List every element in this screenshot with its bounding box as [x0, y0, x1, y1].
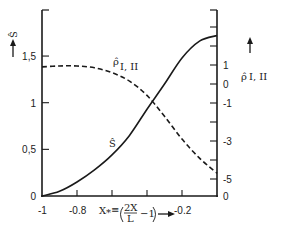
axes — [41, 10, 218, 197]
y-right-tick-label: -3 — [223, 136, 232, 147]
y-right-tick-label: -5 — [223, 174, 232, 185]
y-right-tick-label: 0 — [223, 191, 229, 202]
annotation-rho: ρ̂ — [113, 56, 119, 67]
curves — [42, 36, 217, 197]
x-label-eq: ≡ — [111, 204, 119, 215]
y-left-tick-label: 1,5 — [22, 51, 36, 62]
x-tick-label: -0.2 — [174, 205, 192, 216]
x-tick-label: -1 — [38, 205, 47, 216]
y-left-tick-label: 1 — [30, 98, 36, 109]
x-label-minus-one: −1 — [140, 208, 155, 219]
s-curve — [42, 36, 217, 197]
y-right-tick-label: 1 — [223, 60, 229, 71]
y-left-arrow-icon — [10, 39, 16, 57]
y-left-tick-label: 0,5 — [22, 144, 36, 155]
y-right-label-sub: I, II — [249, 71, 267, 82]
y-right-ticks: 0-5-3-101 — [210, 27, 232, 202]
annotation-rho-sub: I, II — [120, 61, 138, 72]
rho-curve — [42, 66, 217, 174]
x-label-den: L — [127, 213, 134, 224]
y-left-label: Ŝ — [8, 31, 19, 38]
x-label-arrow-icon — [158, 211, 175, 217]
y-right-arrow-icon — [247, 37, 253, 53]
y-right-label: ρ̂ — [241, 71, 247, 82]
x-label-num: 2X — [124, 202, 138, 213]
x-tick-label: -0.8 — [69, 205, 87, 216]
annotation-s: Ŝ — [109, 138, 116, 149]
y-right-tick-label: -1 — [223, 98, 232, 109]
y-right-tick-label: 0 — [223, 79, 229, 90]
y-left-tick-label: 0 — [30, 191, 36, 202]
chart: -1-0.8-0.2 00,511,5 0-5-3-101 Ŝ ρ̂ I, II… — [0, 0, 281, 235]
y-left-ticks: 00,511,5 — [22, 51, 49, 202]
x-label-paren-left — [121, 207, 124, 222]
